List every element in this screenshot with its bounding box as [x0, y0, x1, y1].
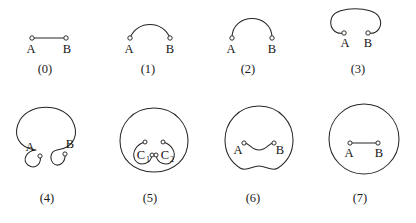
endpoint-b-node [168, 36, 172, 40]
curl-c1-node [143, 140, 147, 144]
outer-circle [329, 104, 399, 174]
panel-2: A B [208, 4, 312, 68]
point-label-b: B [364, 36, 372, 50]
caption-1: (1) [118, 62, 178, 77]
point-label-a: A [233, 143, 242, 157]
outer-circle [120, 108, 188, 172]
point-label-a: A [26, 42, 35, 56]
endpoint-a-node [342, 31, 346, 35]
point-label-b: B [276, 143, 284, 157]
figure-board: A B (0) A B (1) A B (2) A B [0, 0, 416, 223]
caption-3: (3) [328, 62, 388, 77]
point-label-c2-subscript: 2 [170, 155, 174, 164]
arc-ab [232, 19, 272, 39]
endpoint-a-node [242, 141, 246, 145]
endpoint-a-node [38, 154, 42, 158]
panel-7: A B [312, 94, 416, 186]
caption-5: (5) [120, 191, 180, 206]
point-label-b: B [63, 42, 71, 56]
panel-2-graphic: A B [208, 4, 312, 68]
point-label-a: A [124, 42, 133, 56]
wavy-chord-ab [244, 143, 274, 150]
point-label-b: B [166, 42, 174, 56]
panel-6-graphic: A B [208, 96, 312, 184]
curl-c2-end-node [154, 153, 158, 157]
panel-4: A B [0, 96, 104, 184]
endpoint-a-node [30, 36, 34, 40]
endpoint-b-node [366, 31, 370, 35]
curl-c2-node [161, 140, 165, 144]
point-label-a: A [340, 36, 349, 50]
panel-1-graphic: A B [104, 10, 208, 68]
endpoint-a-node [348, 141, 352, 145]
panel-3-graphic: A B [312, 2, 416, 68]
endpoint-b-node [376, 141, 380, 145]
point-label-b: B [268, 42, 276, 56]
caption-7: (7) [330, 191, 390, 206]
caption-6: (6) [223, 191, 283, 206]
point-label-a: A [344, 146, 353, 160]
endpoint-b-node [270, 36, 274, 40]
panel-6: A B [208, 96, 312, 184]
panel-5: C 1 C 2 [104, 96, 208, 184]
panel-4-graphic: A B [0, 96, 104, 184]
panel-0-graphic: A B [0, 10, 104, 68]
outer-circle-notched [225, 106, 293, 169]
point-label-c1: C [137, 148, 145, 162]
point-label-b: B [375, 146, 383, 160]
panel-1: A B [104, 10, 208, 68]
curl-c1-end-node [150, 153, 154, 157]
point-label-c1-subscript: 1 [146, 155, 150, 164]
endpoint-b-node [63, 152, 67, 156]
arc-ab [130, 25, 170, 39]
point-label-a: A [226, 42, 235, 56]
panel-5-graphic: C 1 C 2 [104, 96, 208, 184]
panel-7-graphic: A B [312, 94, 416, 186]
endpoint-b-node [64, 36, 68, 40]
panel-0: A B [0, 10, 104, 68]
point-label-c2: C [161, 148, 169, 162]
caption-2: (2) [218, 62, 278, 77]
endpoint-a-node [230, 36, 234, 40]
caption-0: (0) [15, 62, 75, 77]
caption-4: (4) [17, 191, 77, 206]
point-label-a: A [25, 140, 34, 154]
arc-with-hooks [331, 9, 381, 34]
endpoint-a-node [128, 36, 132, 40]
panel-3: A B [312, 2, 416, 68]
point-label-b: B [66, 137, 74, 151]
